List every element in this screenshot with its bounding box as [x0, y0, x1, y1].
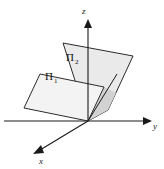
- z-axis-arrowhead: [84, 19, 92, 28]
- z-axis-label: z: [81, 6, 86, 16]
- y-axis-label: y: [152, 121, 157, 131]
- x-axis: [33, 121, 88, 154]
- x-axis-line: [40, 121, 88, 150]
- plane-1-label: Π: [45, 70, 53, 82]
- geometry-figure: z y x Π 1 Π 2: [0, 0, 164, 169]
- y-axis-arrowhead: [143, 117, 152, 125]
- x-axis-arrowhead: [33, 145, 44, 154]
- plane-1-label-subscript: 1: [54, 77, 58, 85]
- plane-2-label: Π: [66, 51, 74, 63]
- plane-2-label-subscript: 2: [75, 58, 79, 66]
- x-axis-label: x: [38, 156, 43, 166]
- figure-canvas: z y x Π 1 Π 2: [0, 0, 164, 169]
